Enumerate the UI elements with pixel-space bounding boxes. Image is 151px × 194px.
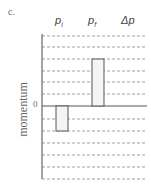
bar-p-initial <box>56 106 68 131</box>
bar-p-final <box>92 59 104 106</box>
momentum-bar-chart <box>0 0 151 194</box>
